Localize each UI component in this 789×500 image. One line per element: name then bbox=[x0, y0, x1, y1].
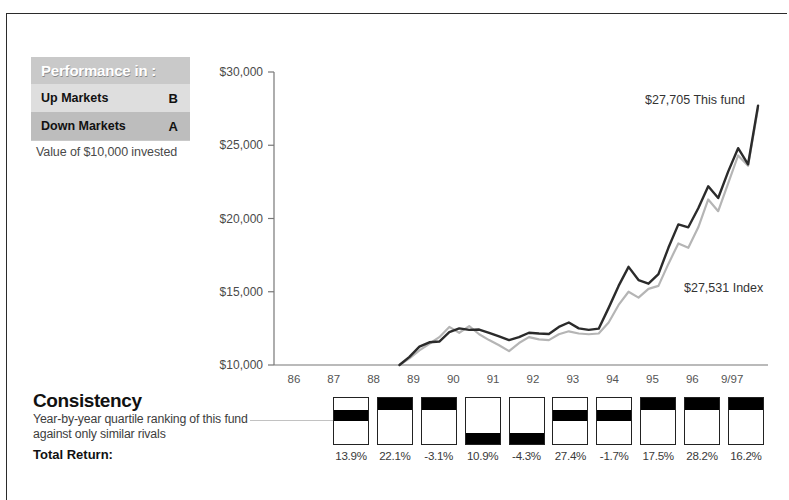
total-return-value: 16.2% bbox=[728, 449, 764, 465]
quartile-cell-empty bbox=[466, 410, 500, 422]
quartile-cell-empty bbox=[378, 421, 412, 433]
quartile-ranking-row bbox=[333, 397, 764, 445]
quartile-cell-empty bbox=[334, 433, 368, 445]
quartile-box bbox=[596, 397, 632, 445]
quartile-cell-empty bbox=[729, 433, 763, 445]
performance-box-title: Performance in : bbox=[31, 57, 190, 84]
performance-row-down-markets: Down Markets A bbox=[31, 112, 190, 140]
quartile-cell-empty bbox=[553, 433, 587, 445]
quartile-box bbox=[728, 397, 764, 445]
quartile-cell-empty bbox=[685, 421, 719, 433]
quartile-cell-empty bbox=[422, 410, 456, 422]
quartile-cell-filled bbox=[378, 398, 412, 410]
quartile-cell-filled bbox=[641, 398, 675, 410]
quartile-cell-empty bbox=[729, 410, 763, 422]
consistency-heading: Consistency bbox=[33, 390, 142, 412]
consistency-subtitle-line1: Year-by-year quartile ranking of this bbox=[33, 412, 221, 426]
quartile-cell-filled bbox=[510, 433, 544, 445]
quartile-cell-filled bbox=[422, 398, 456, 410]
performance-row-up-markets: Up Markets B bbox=[31, 84, 190, 112]
quartile-cell-filled bbox=[597, 410, 631, 422]
quartile-cell-filled bbox=[466, 433, 500, 445]
quartile-cell-filled bbox=[553, 410, 587, 422]
quartile-box bbox=[465, 397, 501, 445]
total-return-values-row: 13.9%22.1%-3.1%10.9%-4.3%27.4%-1.7%17.5%… bbox=[333, 449, 764, 465]
quartile-cell-empty bbox=[597, 398, 631, 410]
performance-grade-box: Performance in : Up Markets B Down Marke… bbox=[31, 57, 190, 141]
quartile-box bbox=[377, 397, 413, 445]
quartile-cell-filled bbox=[729, 398, 763, 410]
quartile-cell-empty bbox=[378, 410, 412, 422]
total-return-value: 28.2% bbox=[684, 449, 720, 465]
quartile-box bbox=[552, 397, 588, 445]
total-return-value: -4.3% bbox=[509, 449, 545, 465]
quartile-cell-empty bbox=[510, 421, 544, 433]
quartile-cell-empty bbox=[334, 421, 368, 433]
quartile-cell-empty bbox=[422, 421, 456, 433]
total-return-value: 10.9% bbox=[465, 449, 501, 465]
quartile-cell-empty bbox=[641, 433, 675, 445]
quartile-cell-empty bbox=[685, 433, 719, 445]
total-return-value: 22.1% bbox=[377, 449, 413, 465]
quartile-cell-empty bbox=[510, 398, 544, 410]
quartile-box bbox=[640, 397, 676, 445]
up-markets-grade: B bbox=[169, 91, 178, 106]
total-return-value: 17.5% bbox=[640, 449, 676, 465]
quartile-box bbox=[509, 397, 545, 445]
total-return-value: 13.9% bbox=[333, 449, 369, 465]
quartile-cell-empty bbox=[641, 410, 675, 422]
quartile-cell-empty bbox=[378, 433, 412, 445]
down-markets-label: Down Markets bbox=[41, 119, 126, 133]
quartile-cell-empty bbox=[597, 433, 631, 445]
quartile-cell-empty bbox=[466, 421, 500, 433]
quartile-box bbox=[684, 397, 720, 445]
quartile-cell-empty bbox=[466, 398, 500, 410]
quartile-cell-empty bbox=[510, 410, 544, 422]
consistency-subtitle: Year-by-year quartile ranking of this fu… bbox=[33, 412, 248, 442]
quartile-box bbox=[421, 397, 457, 445]
quartile-cell-filled bbox=[334, 410, 368, 422]
performance-box-caption: Value of $10,000 invested bbox=[36, 145, 177, 159]
total-return-value: -1.7% bbox=[596, 449, 632, 465]
down-markets-grade: A bbox=[169, 119, 178, 134]
quartile-cell-empty bbox=[729, 421, 763, 433]
quartile-cell-empty bbox=[685, 410, 719, 422]
consistency-divider bbox=[250, 420, 338, 421]
quartile-cell-filled bbox=[685, 398, 719, 410]
total-return-label: Total Return: bbox=[33, 447, 113, 462]
quartile-box bbox=[333, 397, 369, 445]
quartile-cell-empty bbox=[553, 421, 587, 433]
quartile-cell-empty bbox=[334, 398, 368, 410]
up-markets-label: Up Markets bbox=[41, 91, 108, 105]
quartile-cell-empty bbox=[553, 398, 587, 410]
total-return-value: 27.4% bbox=[552, 449, 588, 465]
quartile-cell-empty bbox=[597, 421, 631, 433]
quartile-cell-empty bbox=[641, 421, 675, 433]
quartile-cell-empty bbox=[422, 433, 456, 445]
total-return-value: -3.1% bbox=[421, 449, 457, 465]
